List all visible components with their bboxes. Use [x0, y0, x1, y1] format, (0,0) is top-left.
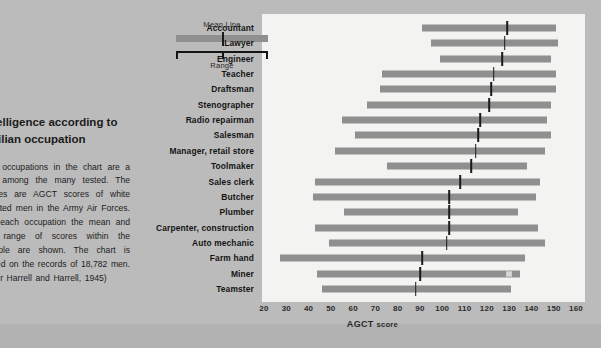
range-bar: [367, 101, 552, 108]
x-axis-tick-label: 140: [524, 304, 538, 313]
category-label: Accountant: [206, 23, 254, 33]
category-label: Farm hand: [210, 253, 254, 263]
range-bar: [431, 40, 558, 47]
mean-line-marker: [415, 282, 417, 296]
value-axis: AGCT score 20304050607080901001101201301…: [150, 302, 595, 340]
category-label: Radio repairman: [186, 115, 254, 125]
category-label: Sales clerk: [209, 177, 254, 187]
mean-line-marker: [448, 221, 450, 235]
category-label: Stenographer: [198, 100, 254, 110]
mean-line-marker: [506, 21, 508, 35]
range-bar: [322, 285, 511, 292]
mean-line-marker: [479, 113, 481, 127]
x-axis-tick-label: 110: [458, 304, 472, 313]
x-axis-tick-label: 130: [502, 304, 516, 313]
x-axis-tick-label: 70: [371, 304, 380, 313]
category-label: Manager, retail store: [169, 146, 254, 156]
mean-line-marker: [491, 82, 493, 96]
category-label: Plumber: [219, 207, 254, 217]
range-bar: [355, 132, 551, 139]
range-bar: [315, 178, 540, 185]
range-bar: [380, 86, 556, 93]
range-bar: [313, 193, 536, 200]
mean-line-marker: [446, 236, 448, 250]
category-label: Salesman: [214, 130, 254, 140]
x-axis-title: AGCT score: [150, 319, 595, 329]
plate-artifact-mark: [506, 271, 512, 276]
mean-line-marker: [448, 205, 450, 219]
x-axis-tick-label: 20: [259, 304, 268, 313]
x-axis-tick-label: 50: [326, 304, 335, 313]
x-axis-tick-label: 80: [393, 304, 402, 313]
mean-line-marker: [493, 67, 495, 81]
figure-caption-body: The occupations in the chart are a few a…: [0, 161, 130, 286]
mean-line-marker: [448, 190, 450, 204]
range-bar: [329, 239, 545, 246]
mean-line-marker: [421, 251, 423, 265]
figure-title: Intelligence according to civilian occup…: [0, 114, 130, 149]
mean-line-marker: [477, 128, 479, 142]
mean-line-marker: [488, 98, 490, 112]
range-bar: [440, 55, 551, 62]
figure-caption: 5-6 Intelligence according to civilian o…: [0, 92, 130, 286]
range-bar: [422, 25, 556, 32]
range-bar: [344, 209, 518, 216]
mean-line-marker: [475, 144, 477, 158]
category-label: Carpenter, construction: [156, 223, 254, 233]
x-axis-tick-label: 40: [304, 304, 313, 313]
x-axis-tick-label: 150: [547, 304, 561, 313]
range-bar: [387, 163, 527, 170]
category-label: Engineer: [217, 54, 254, 64]
mean-line-marker: [470, 159, 472, 173]
range-bar: [382, 71, 556, 78]
category-label: Auto mechanic: [192, 238, 254, 248]
x-axis-tick-label: 30: [282, 304, 291, 313]
x-axis-tick-label: 100: [435, 304, 449, 313]
x-axis-tick-label: 160: [569, 304, 583, 313]
category-axis: AccountantLawyerEngineerTeacherDraftsman…: [150, 14, 258, 302]
category-label: Draftsman: [211, 84, 254, 94]
category-label: Lawyer: [224, 38, 254, 48]
chart: Mean Line Range AccountantLawyerEngineer…: [150, 10, 595, 340]
x-axis-title-main: AGCT: [347, 319, 374, 329]
range-bar: [335, 147, 544, 154]
category-label: Teacher: [221, 69, 254, 79]
figure-number: 5-6: [0, 92, 130, 104]
range-bar: [280, 255, 525, 262]
category-label: Teamster: [216, 284, 254, 294]
range-bar: [342, 117, 547, 124]
category-label: Toolmaker: [211, 161, 254, 171]
x-axis-tick-label: 120: [480, 304, 494, 313]
mean-line-marker: [504, 36, 506, 50]
mean-line-marker: [419, 267, 421, 281]
mean-line-marker: [459, 175, 461, 189]
mean-line-marker: [502, 52, 504, 66]
x-axis-tick-label: 90: [415, 304, 424, 313]
bars-layer: [262, 14, 585, 302]
category-label: Miner: [231, 269, 254, 279]
category-label: Butcher: [221, 192, 254, 202]
figure-page: 5-6 Intelligence according to civilian o…: [0, 0, 601, 348]
range-bar: [315, 224, 538, 231]
x-axis-title-sub: score: [376, 320, 398, 329]
x-axis-tick-label: 60: [348, 304, 357, 313]
